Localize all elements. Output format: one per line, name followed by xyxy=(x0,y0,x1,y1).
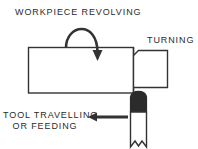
workpiece-turned-section xyxy=(134,51,168,88)
tool-feed-label-group: TOOL TRAVELLING OR FEEDING xyxy=(3,110,87,132)
turning-label: TURNING xyxy=(147,35,194,46)
tool-shank xyxy=(131,112,147,147)
or-feeding-label: OR FEEDING xyxy=(3,121,87,132)
workpiece-body xyxy=(29,48,134,94)
turning-operation-diagram: WORKPIECE REVOLVING TURNING TOOL TRAVELL… xyxy=(0,0,198,149)
tool-cutting-tip xyxy=(131,91,147,112)
workpiece-revolving-label: WORKPIECE REVOLVING xyxy=(15,7,141,18)
tool-travelling-label: TOOL TRAVELLING xyxy=(3,110,98,120)
